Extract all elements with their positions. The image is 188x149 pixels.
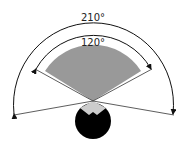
fov-sector-120 <box>45 45 141 101</box>
label-120: 120° <box>81 37 105 48</box>
label-210: 210° <box>81 12 105 23</box>
field-of-view-diagram: 210° 120° <box>0 0 188 149</box>
